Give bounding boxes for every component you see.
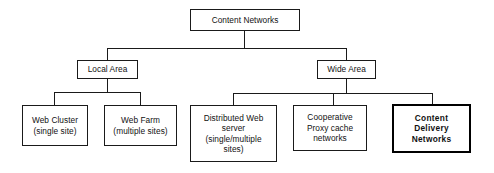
connector-local-area-stem: [107, 79, 108, 93]
connector-drop-wide-area: [346, 48, 347, 60]
node-label: Content Delivery Networks: [409, 113, 455, 144]
node-wide-area[interactable]: Wide Area: [317, 60, 376, 79]
node-content-networks[interactable]: Content Networks: [190, 9, 300, 31]
diagram-canvas: Content Networks Local Area Wide Area We…: [0, 0, 494, 173]
connector-local-area-bus: [54, 92, 141, 93]
node-label: Cooperative Proxy cache networks: [304, 112, 356, 143]
node-web-farm[interactable]: Web Farm (multiple sites): [104, 105, 177, 146]
node-label: Local Area: [85, 64, 131, 74]
connector-wide-area-stem: [346, 79, 347, 94]
connector-drop-web-cluster: [54, 92, 55, 105]
node-label: Content Networks: [209, 15, 282, 25]
node-label: Wide Area: [324, 64, 369, 74]
node-label: Web Cluster (single site): [29, 115, 81, 136]
connector-drop-distributed-web-server: [233, 93, 234, 105]
node-cooperative-proxy-cache-networks[interactable]: Cooperative Proxy cache networks: [293, 105, 367, 151]
connector-level2-bus: [107, 48, 347, 49]
node-local-area[interactable]: Local Area: [77, 60, 138, 79]
node-web-cluster[interactable]: Web Cluster (single site): [22, 105, 88, 146]
node-label: Distributed Web server (single/multiple …: [201, 113, 267, 155]
connector-drop-web-farm: [140, 92, 141, 105]
connector-drop-cooperative-proxy-cache-networks: [333, 93, 334, 105]
connector-drop-local-area: [107, 48, 108, 60]
node-distributed-web-server[interactable]: Distributed Web server (single/multiple …: [190, 105, 277, 162]
connector-root-stem: [244, 31, 245, 49]
node-label: Web Farm (multiple sites): [110, 115, 170, 136]
node-content-delivery-networks[interactable]: Content Delivery Networks: [392, 104, 471, 153]
